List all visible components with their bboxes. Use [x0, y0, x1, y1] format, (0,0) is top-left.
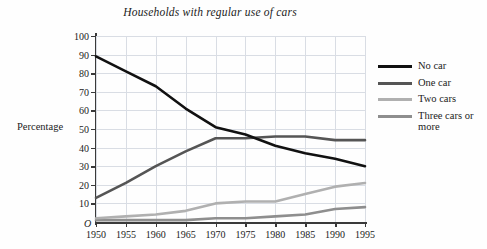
series-lines: [96, 36, 365, 222]
x-axis-tick: [216, 222, 217, 227]
x-axis-tick-label: 1970: [206, 229, 226, 240]
legend-color-swatch: [378, 65, 412, 68]
y-axis-tick-label: 10: [79, 198, 89, 209]
x-axis-tick-label: 1980: [265, 229, 285, 240]
legend-item[interactable]: No car: [378, 60, 486, 72]
y-axis-tick-label: 50: [79, 124, 89, 135]
legend-color-swatch: [378, 98, 412, 101]
chart-title: Households with regular use of cars: [0, 6, 420, 18]
series-line: [96, 56, 365, 166]
x-axis-line: [95, 222, 367, 224]
legend-item[interactable]: Three cars or more: [378, 110, 486, 133]
x-axis-tick: [156, 222, 157, 227]
x-axis-tick-label: 1965: [176, 229, 196, 240]
y-axis-tick-label: 100: [74, 31, 89, 42]
y-axis-tick-label: 40: [79, 142, 89, 153]
x-axis-tick: [126, 222, 127, 227]
y-axis-tick-label: 90: [79, 49, 89, 60]
gridline-vertical: [365, 36, 366, 222]
x-axis-tick: [275, 222, 276, 227]
legend-item-label: One car: [418, 77, 451, 89]
chart-container: Households with regular use of cars Perc…: [0, 0, 487, 249]
y-axis-tick-label: 30: [79, 161, 89, 172]
x-axis-tick: [365, 222, 366, 227]
y-axis-label: Percentage: [17, 121, 63, 132]
y-axis-tick-label: 60: [79, 105, 89, 116]
origin-marker: O: [84, 218, 91, 229]
x-axis-tick: [245, 222, 246, 227]
x-axis-tick: [335, 222, 336, 227]
plot-area: 102030405060708090100 195019551960196519…: [96, 36, 365, 222]
legend-color-swatch: [378, 82, 412, 85]
x-axis-tick-label: 1995: [355, 229, 375, 240]
x-axis-tick-label: 1990: [325, 229, 345, 240]
x-axis-tick-label: 1960: [146, 229, 166, 240]
legend-item-label: Two cars: [418, 93, 456, 105]
x-axis-tick: [305, 222, 306, 227]
x-axis-tick: [96, 222, 97, 227]
x-axis-tick: [186, 222, 187, 227]
x-axis-tick-label: 1955: [116, 229, 136, 240]
legend-item[interactable]: One car: [378, 77, 486, 89]
y-axis-tick-label: 70: [79, 86, 89, 97]
x-axis-tick-label: 1975: [235, 229, 255, 240]
y-axis-tick-label: 20: [79, 179, 89, 190]
series-line: [96, 207, 365, 220]
legend-item-label: No car: [418, 60, 446, 72]
x-axis-tick-label: 1950: [86, 229, 106, 240]
y-axis-tick-label: 80: [79, 68, 89, 79]
legend-item[interactable]: Two cars: [378, 93, 486, 105]
chart-legend: No carOne carTwo carsThree cars or more: [378, 60, 486, 138]
legend-item-label: Three cars or more: [418, 110, 486, 133]
x-axis-tick-label: 1985: [295, 229, 315, 240]
legend-color-swatch: [378, 115, 412, 118]
series-line: [96, 183, 365, 218]
